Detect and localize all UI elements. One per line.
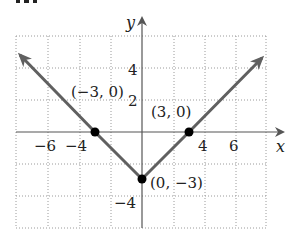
- point-right-intercept: [185, 128, 194, 137]
- x-tick-label: 4: [198, 137, 208, 155]
- x-tick-label: −6: [34, 137, 56, 155]
- point-label-vertex: (0, −3): [150, 174, 203, 192]
- point-vertex: [138, 175, 147, 184]
- graph-figure: x y −6 −4 4 6 4 2 −4 (−3, 0) (3, 0) (0, …: [0, 0, 304, 252]
- y-axis-label: y: [125, 13, 136, 32]
- point-label-right: (3, 0): [151, 103, 191, 121]
- point-left-intercept: [91, 128, 100, 137]
- y-tick-label: 2: [128, 92, 138, 110]
- cropped-caption-fragment: [16, 0, 37, 3]
- y-tick-label: 4: [128, 61, 138, 79]
- x-tick-label: −4: [65, 137, 87, 155]
- x-tick-label: 6: [229, 137, 239, 155]
- x-axis-label: x: [276, 137, 285, 156]
- y-tick-label: −4: [114, 194, 136, 212]
- point-label-left: (−3, 0): [71, 83, 124, 101]
